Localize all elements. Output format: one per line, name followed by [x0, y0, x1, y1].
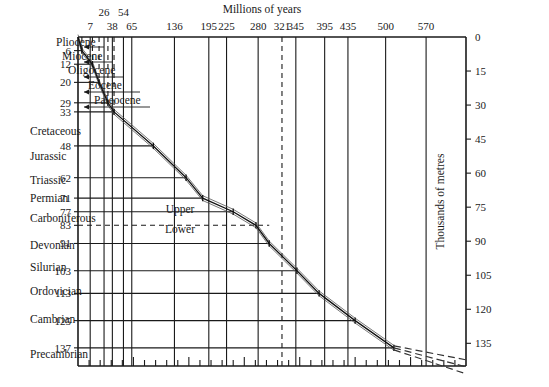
x-tick-label-65: 65 [126, 20, 138, 32]
x-tick-label-7: 7 [87, 20, 93, 32]
x-tick-label-345: 345 [288, 20, 305, 32]
y-right-tick-label-90: 90 [475, 235, 487, 247]
x-tick-label-38: 38 [107, 20, 119, 32]
x-tick-label-225: 225 [218, 20, 235, 32]
period-label-devonian: Devonian [30, 239, 75, 251]
x-tick-label-435: 435 [340, 20, 357, 32]
y-axis-title: Thousands of metres [434, 153, 446, 249]
strata-thickness-curve [78, 37, 394, 348]
period-label-cretaceous: Cretaceous [30, 125, 82, 137]
y-right-tick-label-120: 120 [475, 303, 492, 315]
epoch-arrowhead-4 [84, 104, 89, 109]
y-right-tick-label-15: 15 [475, 65, 487, 77]
chart-canvas: 726385465136195225280321345395435500570M… [0, 0, 549, 387]
x-axis-title: Millions of years [223, 3, 302, 16]
subdivision-label-upper: Upper [166, 203, 195, 216]
epoch-label-miocene: Miocene [62, 50, 102, 62]
x-tick-label-136: 136 [166, 20, 183, 32]
x-tick-label-395: 395 [316, 20, 333, 32]
x-tick-label-54: 54 [118, 6, 130, 18]
period-label-carboniferous: Carboniferous [30, 212, 96, 224]
curve-lower-edge [78, 39, 394, 350]
x-tick-label-195: 195 [201, 20, 218, 32]
x-tick-label-26: 26 [99, 6, 111, 18]
y-right-tick-label-30: 30 [475, 99, 487, 111]
x-tick-label-500: 500 [377, 20, 394, 32]
y-right-tick-label-60: 60 [475, 167, 487, 179]
y-right-tick-label-105: 105 [475, 269, 492, 281]
epoch-label-paleocene: Paleocene [94, 94, 141, 106]
period-label-silurian: Silurian [30, 261, 67, 273]
period-label-jurassic: Jurassic [30, 150, 66, 162]
y-right-tick-label-75: 75 [475, 201, 487, 213]
period-label-ordovician: Ordovician [30, 285, 82, 297]
epoch-label-eocene: Eocene [88, 79, 122, 91]
y-right-tick-label-0: 0 [475, 31, 481, 43]
period-label-cambrian: Cambrian [30, 313, 76, 325]
geological-time-scale-chart: 726385465136195225280321345395435500570M… [0, 0, 549, 387]
epoch-label-pliocene: Pliocene [56, 36, 96, 48]
x-tick-label-570: 570 [418, 20, 435, 32]
y-right-tick-label-45: 45 [475, 133, 487, 145]
y-left-tick-label-33: 33 [60, 106, 72, 118]
curve-upper-edge [78, 35, 394, 346]
x-tick-label-280: 280 [250, 20, 267, 32]
period-label-permian: Permian [30, 192, 69, 204]
y-right-tick-label-135: 135 [475, 337, 492, 349]
subdivision-label-lower: Lower [165, 223, 195, 235]
period-label-precambrian: Precambrian [30, 348, 88, 360]
period-label-triassic: Triassic [30, 174, 66, 186]
y-left-tick-label-20: 20 [60, 76, 72, 88]
